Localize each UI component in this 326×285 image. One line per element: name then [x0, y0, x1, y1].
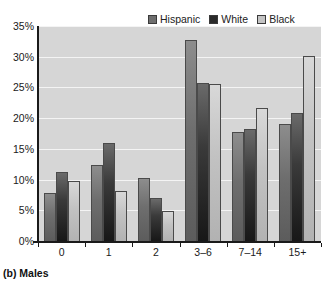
x-tick-mark	[132, 243, 133, 247]
bar-white-3-6	[197, 83, 209, 241]
legend-label-hispanic: Hispanic	[160, 14, 200, 25]
legend-item-hispanic: Hispanic	[148, 14, 200, 25]
bar-hispanic-0	[44, 193, 56, 241]
x-tick-label: 1	[106, 247, 112, 258]
bar-black-7-14	[256, 108, 268, 241]
legend-item-black: Black	[257, 14, 295, 25]
bar-white-1	[103, 143, 115, 241]
bar-hispanic-3-6	[185, 40, 197, 241]
legend-swatch-hispanic	[148, 15, 157, 24]
y-tick-label: 5%	[19, 205, 34, 216]
x-tick-mark	[227, 243, 228, 247]
figure-caption: (b) Males	[3, 268, 49, 279]
bar-white-2	[150, 198, 162, 241]
bars-layer	[38, 26, 321, 241]
bar-group	[180, 26, 227, 241]
x-tick-label: 2	[153, 247, 159, 258]
y-axis-line	[37, 26, 39, 241]
x-tick-mark	[274, 243, 275, 247]
x-axis-line	[33, 241, 321, 243]
y-tick-label: 30%	[13, 51, 34, 62]
legend-label-white: White	[221, 14, 248, 25]
y-tick-label: 20%	[13, 113, 34, 124]
bar-black-0	[68, 181, 80, 241]
bar-group	[85, 26, 132, 241]
x-tick-mark	[321, 243, 322, 247]
y-axis: 0%5%10%15%20%25%30%35%	[0, 26, 34, 241]
bar-group	[274, 26, 321, 241]
bar-group	[38, 26, 85, 241]
y-tick-label: 10%	[13, 174, 34, 185]
legend-swatch-black	[257, 15, 266, 24]
x-tick-label: 0	[59, 247, 65, 258]
bar-white-0	[56, 172, 68, 241]
bar-group	[227, 26, 274, 241]
x-tick-mark	[85, 243, 86, 247]
y-tick-label: 0%	[19, 236, 34, 247]
bar-hispanic-1	[91, 165, 103, 241]
bar-white-15-	[291, 113, 303, 241]
legend-swatch-white	[209, 15, 218, 24]
bar-white-7-14	[244, 129, 256, 241]
bar-group	[132, 26, 179, 241]
y-tick-label: 15%	[13, 144, 34, 155]
chart-legend: Hispanic White Black	[148, 12, 295, 26]
bar-black-2	[162, 211, 174, 241]
bar-black-3-6	[209, 84, 221, 241]
x-tick-label: 15+	[289, 247, 307, 258]
x-axis: 0123–67–1415+	[38, 247, 321, 263]
x-tick-mark	[180, 243, 181, 247]
x-tick-label: 3–6	[194, 247, 212, 258]
bar-black-1	[115, 191, 127, 241]
x-tick-label: 7–14	[239, 247, 262, 258]
y-tick-label: 25%	[13, 82, 34, 93]
bar-chart-figure: Hispanic White Black 0%5%10%15%20%25%30%…	[0, 0, 326, 285]
x-tick-mark	[38, 243, 39, 247]
bar-hispanic-7-14	[232, 132, 244, 241]
bar-black-15-	[303, 56, 315, 242]
bar-hispanic-2	[138, 178, 150, 241]
legend-label-black: Black	[269, 14, 295, 25]
legend-item-white: White	[209, 14, 248, 25]
y-tick-label: 35%	[13, 21, 34, 32]
bar-hispanic-15-	[279, 124, 291, 241]
